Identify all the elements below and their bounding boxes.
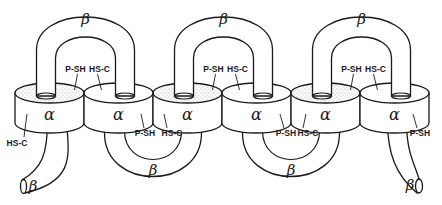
right-tail-end-cap [416,179,423,193]
left-tail-end-cap [21,180,27,194]
alpha-label: α [44,105,55,124]
alpha-label: α [113,105,124,124]
beta-label-top: β [356,10,366,28]
top-loop [37,17,135,96]
top-loop [313,17,411,96]
beta-label-bottom: β [286,161,296,179]
hs-c-label: HS-C [227,64,248,74]
subunit-chain-diagram: ββββααααααβP-SHHS-CβP-SHHS-CβP-SHHS-CHS-… [0,0,442,205]
hs-c-label: HS-C [298,128,319,138]
p-sh-label: P-SH [276,128,296,138]
p-sh-label: P-SH [65,64,85,74]
hs-c-label: HS-C [162,128,183,138]
alpha-label: α [182,105,193,124]
p-sh-label: P-SH [341,64,361,74]
beta-label-right-tail: β [405,176,415,194]
bottom-loops-layer [21,118,423,194]
hs-c-label: HS-C [7,138,28,148]
alpha-label: α [389,105,400,124]
top-loop [175,17,273,96]
hs-c-label: HS-C [365,64,386,74]
beta-label-left-tail: β [28,177,38,195]
beta-label-top: β [80,10,90,28]
p-sh-label: P-SH [203,64,223,74]
beta-label-top: β [218,10,228,28]
alpha-discs-layer [15,83,429,133]
alpha-label: α [251,105,262,124]
p-sh-label: P-SH [135,128,155,138]
p-sh-label: P-SH [410,128,430,138]
hs-c-label: HS-C [89,64,110,74]
alpha-label: α [320,105,331,124]
beta-label-bottom: β [148,161,158,179]
